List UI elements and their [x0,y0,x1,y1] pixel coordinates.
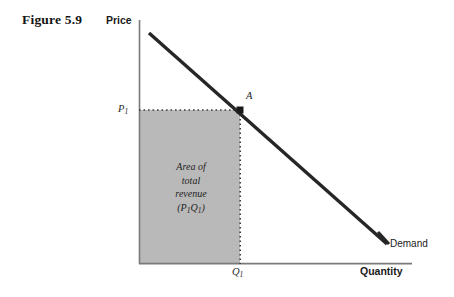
price-axis-value-subscript: 1 [124,107,128,116]
quantity-axis-value-letter: Q [232,266,240,277]
point-a-marker [237,107,244,114]
quantity-axis-value: Q1 [232,266,243,277]
demand-curve-plot [0,0,454,297]
price-axis-value: P1 [118,103,128,114]
total-revenue-area [139,110,240,264]
figure-container: Figure 5.9 Price Quantity P1 Q1 Area of … [0,0,454,297]
y-axis-title: Price [106,14,132,26]
point-a-label: A [246,90,252,101]
x-axis-title: Quantity [360,265,403,277]
demand-curve-label: Demand [390,238,428,249]
quantity-axis-value-subscript: 1 [240,270,244,279]
